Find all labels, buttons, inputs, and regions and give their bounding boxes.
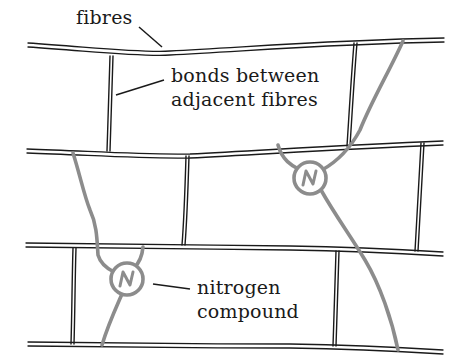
bond-1 (107, 56, 113, 151)
fibre-3 (26, 243, 443, 256)
bond-4 (415, 143, 424, 251)
fibre-2 (27, 141, 443, 158)
bond-2 (347, 43, 357, 146)
bond-3 (182, 156, 189, 245)
bond-6 (333, 251, 339, 346)
fibres-leader-line (139, 27, 162, 47)
bonds-leader-line (116, 80, 164, 95)
bonds-label-line2: adjacent fibres (171, 88, 318, 110)
nitrogen-compound-icon-upper (294, 162, 326, 194)
nitrogen-label-line1: nitrogen (197, 276, 281, 298)
bond-5 (71, 248, 76, 344)
fibres-label: fibres (76, 6, 133, 28)
fibre-1 (28, 38, 444, 55)
bonds-label-line1: bonds between (171, 64, 319, 86)
nitrogen-label-line2: compound (197, 300, 299, 322)
fibre-4 (28, 342, 443, 354)
nitrogen-compound-icon-lower (111, 263, 143, 295)
nitrogen-chain-lower (73, 153, 143, 345)
nitrogen-leader-line (153, 284, 190, 289)
paper-fibre-diagram: fibres bonds between adjacent fibres nit… (0, 0, 464, 361)
